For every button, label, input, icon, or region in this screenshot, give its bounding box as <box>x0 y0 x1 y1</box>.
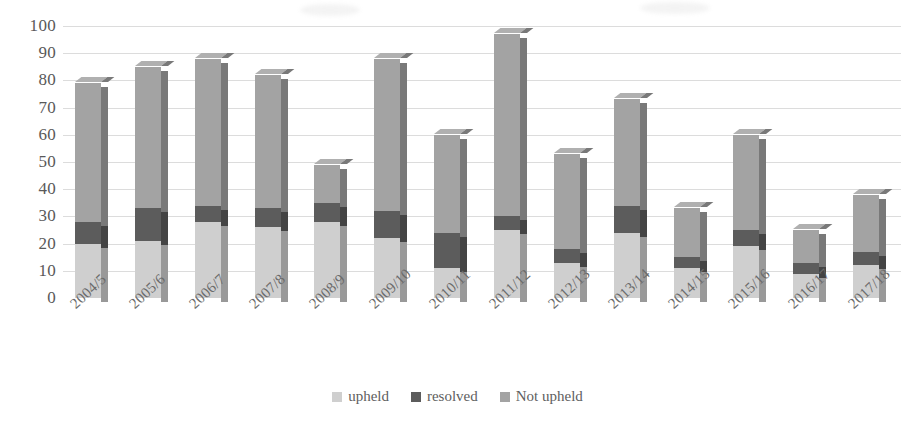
legend-swatch <box>411 392 421 402</box>
bar-segment-side <box>520 220 527 234</box>
bar-segment <box>793 230 819 263</box>
bar-segment <box>674 208 700 257</box>
stacked-bar <box>733 26 759 298</box>
bar-segment-side <box>700 212 707 261</box>
bar-segment-side <box>879 199 886 256</box>
bar-segment-side <box>221 226 228 302</box>
bar-segment <box>314 203 340 222</box>
bar-segment-side <box>819 234 826 267</box>
bar-segment <box>75 83 101 222</box>
bar-segment-side <box>340 226 347 302</box>
bar-segment-side <box>520 38 527 220</box>
bar-segment <box>614 206 640 233</box>
y-axis-tick-label: 90 <box>38 43 56 63</box>
bar-segment <box>255 75 281 208</box>
bar-segment <box>75 222 101 244</box>
scan-artifact <box>300 4 360 16</box>
bar-segment <box>195 206 221 222</box>
y-axis-tick-label: 0 <box>47 288 56 308</box>
bar-segment <box>314 165 340 203</box>
x-axis: 2004/52005/62006/72007/82008/92009/10201… <box>63 300 901 386</box>
y-axis-tick-label: 40 <box>38 179 56 199</box>
bar-group <box>374 26 408 298</box>
legend-item[interactable]: resolved <box>411 388 478 405</box>
bar-segment-side <box>221 210 228 226</box>
bar-group <box>255 26 289 298</box>
bar-segment-side <box>759 139 766 234</box>
bar-segment <box>195 59 221 206</box>
y-axis-tick-label: 70 <box>38 98 56 118</box>
bar-group <box>195 26 229 298</box>
bar-segment <box>255 208 281 227</box>
stacked-bar <box>75 26 101 298</box>
bars <box>63 26 901 298</box>
stacked-bar <box>674 26 700 298</box>
stacked-bar <box>374 26 400 298</box>
legend-label: Not upheld <box>516 388 583 405</box>
bar-segment-side <box>161 212 168 245</box>
stacked-bar <box>554 26 580 298</box>
bar-segment-side <box>400 63 407 215</box>
legend-label: upheld <box>348 388 389 405</box>
plot-area <box>63 26 901 298</box>
bar-segment-side <box>460 139 467 237</box>
bar-segment-side <box>640 103 647 209</box>
bar-segment-side <box>221 63 228 210</box>
y-axis-tick-label: 30 <box>38 206 56 226</box>
bar-segment <box>554 154 580 249</box>
stacked-bar <box>195 26 221 298</box>
bar-segment-side <box>580 253 587 267</box>
bar-segment <box>135 67 161 208</box>
bar-group <box>135 26 169 298</box>
stacked-bar <box>314 26 340 298</box>
stacked-bar <box>614 26 640 298</box>
legend-swatch <box>500 392 510 402</box>
bar-group <box>614 26 648 298</box>
bar-segment <box>674 257 700 268</box>
bar-segment <box>733 230 759 246</box>
y-axis-tick-label: 10 <box>38 261 56 281</box>
bar-segment-side <box>161 71 168 212</box>
stacked-bar <box>853 26 879 298</box>
legend-swatch <box>332 392 342 402</box>
bar-group <box>434 26 468 298</box>
bar-segment <box>733 135 759 230</box>
bar-segment-side <box>281 79 288 212</box>
stacked-bar <box>135 26 161 298</box>
bar-segment <box>374 211 400 238</box>
y-axis: 0102030405060708090100 <box>0 26 56 298</box>
bar-group <box>733 26 767 298</box>
bar-segment-side <box>340 207 347 226</box>
bar-segment <box>494 216 520 230</box>
bar-segment <box>853 195 879 252</box>
y-axis-tick-label: 50 <box>38 152 56 172</box>
bar-group <box>75 26 109 298</box>
bar-group <box>793 26 827 298</box>
bar-segment-side <box>161 245 168 302</box>
bar-group <box>314 26 348 298</box>
legend-item[interactable]: Not upheld <box>500 388 583 405</box>
bar-segment <box>554 249 580 263</box>
stacked-bar <box>434 26 460 298</box>
bar-segment <box>853 252 879 266</box>
y-axis-tick-label: 60 <box>38 125 56 145</box>
bar-segment-side <box>101 87 108 226</box>
bar-group <box>674 26 708 298</box>
bar-segment <box>135 208 161 241</box>
legend-item[interactable]: upheld <box>332 388 389 405</box>
bar-segment-side <box>640 210 647 237</box>
bar-group <box>494 26 528 298</box>
stacked-bar <box>494 26 520 298</box>
bar-group <box>853 26 887 298</box>
bar-segment <box>434 135 460 233</box>
bar-segment-side <box>281 231 288 302</box>
stacked-bar <box>255 26 281 298</box>
bar-segment <box>374 59 400 211</box>
bar-segment <box>434 233 460 268</box>
y-axis-tick-label: 20 <box>38 234 56 254</box>
chart-legend: upheldresolvedNot upheld <box>0 388 915 405</box>
bar-segment-side <box>281 212 288 231</box>
bar-segment <box>494 34 520 216</box>
scan-artifact <box>640 2 710 14</box>
y-axis-tick-label: 80 <box>38 70 56 90</box>
